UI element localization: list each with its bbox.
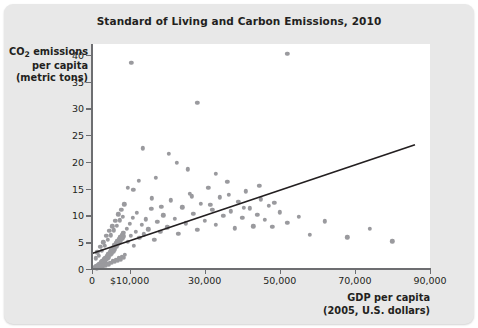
x-axis-line: [91, 268, 431, 270]
y-tick-mark: [86, 55, 91, 56]
y-tick-label: 15: [14, 183, 84, 194]
x-tick-label: 50,000: [263, 275, 296, 286]
y-tick-mark: [86, 242, 91, 243]
x-axis-title-line1: GDP per capita: [347, 292, 430, 303]
y-tick-label: 5: [14, 237, 84, 248]
y-tick-mark: [86, 189, 91, 190]
plot-frame: [92, 44, 430, 269]
y-axis-line: [91, 44, 93, 270]
y-tick-mark: [86, 162, 91, 163]
y-tick-label: 35: [14, 76, 84, 87]
y-tick-mark: [86, 215, 91, 216]
y-tick-label: 10: [14, 210, 84, 221]
trend-line: [92, 44, 430, 269]
x-tick-mark: [355, 269, 356, 274]
y-tick-mark: [86, 108, 91, 109]
x-tick-label: $10,000: [110, 275, 149, 286]
x-tick-mark: [205, 269, 206, 274]
x-axis-title: GDP per capita (2005, U.S. dollars): [323, 292, 430, 317]
y-tick-mark: [86, 82, 91, 83]
x-tick-mark: [280, 269, 281, 274]
y-tick-label: 30: [14, 103, 84, 114]
x-axis-title-line2: (2005, U.S. dollars): [323, 305, 430, 316]
figure-card: Standard of Living and Carbon Emissions,…: [4, 4, 474, 324]
y-tick-label: 25: [14, 130, 84, 141]
y-tick-label-group: 0510152025303540: [12, 4, 84, 324]
y-tick-mark: [86, 269, 91, 270]
x-tick-label: 0: [89, 275, 95, 286]
y-tick-label: 20: [14, 156, 84, 167]
x-tick-mark: [430, 269, 431, 274]
x-tick-mark: [130, 269, 131, 274]
x-tick-label: 70,000: [338, 275, 371, 286]
x-tick-label: 30,000: [188, 275, 221, 286]
scatter-chart-figure: Standard of Living and Carbon Emissions,…: [4, 4, 474, 324]
x-tick-mark: [92, 269, 93, 274]
y-tick-mark: [86, 135, 91, 136]
y-tick-label: 40: [14, 49, 84, 60]
x-tick-label: 90,000: [413, 275, 446, 286]
y-tick-label: 0: [14, 264, 84, 275]
